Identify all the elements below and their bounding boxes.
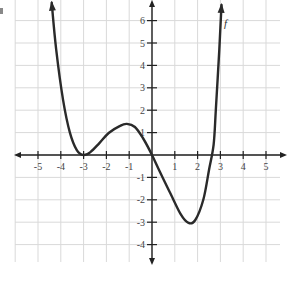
x-tick-label: 2 [195,161,200,172]
curve-right-arrow-icon [218,3,225,13]
x-tick-label: 4 [241,161,246,172]
y-tick-label: 6 [140,15,145,26]
x-tick-label: 1 [172,161,177,172]
y-tick-label: 2 [140,105,145,116]
x-tick-label: -3 [79,161,87,172]
y-tick-label: -1 [137,172,145,183]
x-tick-label: -1 [125,161,133,172]
x-tick-label: 5 [264,161,269,172]
x-tick-label: -4 [57,161,65,172]
y-axis-down-arrow-icon [149,258,155,265]
y-tick-label: -3 [137,217,145,228]
function-graph: -5-4-3-2-112345654321-1-2-3-4 f [0,0,293,283]
function-label: f [224,17,229,29]
y-tick-label: 4 [140,60,145,71]
y-axis-up-arrow-icon [149,0,155,7]
y-tick-label: -4 [137,239,145,250]
x-tick-label: -2 [102,161,110,172]
y-tick-label: 5 [140,38,145,49]
x-tick-label: -5 [34,161,42,172]
y-tick-label: 3 [140,82,145,93]
x-tick-label: 3 [218,161,223,172]
function-curve-f [52,3,222,224]
x-axis-right-arrow-icon [280,152,287,158]
y-tick-label: -2 [137,194,145,205]
